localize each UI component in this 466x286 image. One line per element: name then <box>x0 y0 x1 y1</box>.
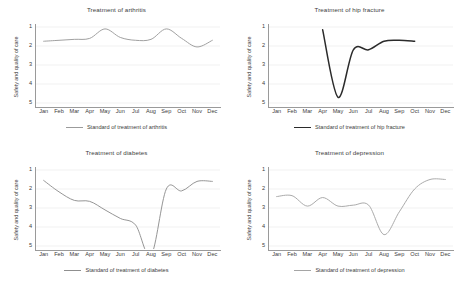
y-tick-label: 1 <box>20 23 32 29</box>
y-tick-label: 1 <box>253 166 265 172</box>
legend-diabetes: Standard of treatment of diabetes <box>0 267 233 273</box>
data-line <box>44 29 213 47</box>
y-tick-label: 3 <box>253 61 265 67</box>
panel-depression: Treatment of depression Safety and quali… <box>233 143 466 286</box>
y-axis-line <box>35 24 36 108</box>
y-tick-label: 1 <box>20 166 32 172</box>
panel-hip-fracture: Treatment of hip fracture Safety and qua… <box>233 0 466 143</box>
chart-title-diabetes: Treatment of diabetes <box>0 149 233 156</box>
data-line <box>277 179 446 235</box>
plot-svg-hip-fracture <box>269 24 453 106</box>
plot-area-depression <box>269 167 453 249</box>
y-tick-label: 3 <box>253 204 265 210</box>
y-tick-label: 5 <box>253 242 265 248</box>
data-line <box>323 30 415 98</box>
legend-arthritis: Standard of treatment of arthritis <box>0 124 233 130</box>
plot-svg-depression <box>269 167 453 249</box>
y-tick-label: 2 <box>20 185 32 191</box>
chart-title-depression: Treatment of depression <box>233 149 466 156</box>
y-tick-label: 1 <box>253 23 265 29</box>
y-tick-label: 4 <box>20 80 32 86</box>
legend-label-hip-fracture: Standard of treatment of hip fracture <box>315 124 405 130</box>
legend-label-depression: Standard of treatment of depression <box>315 267 404 273</box>
y-tick-label: 3 <box>20 204 32 210</box>
panel-arthritis: Treatment of arthritis Safety and qualit… <box>0 0 233 143</box>
legend-line-icon <box>294 127 311 128</box>
data-line <box>44 180 213 249</box>
chart-title-hip-fracture: Treatment of hip fracture <box>233 6 466 13</box>
legend-line-icon <box>64 270 81 271</box>
x-tick-label-dec: Dec <box>203 251 221 257</box>
y-tick-label: 2 <box>20 42 32 48</box>
legend-hip-fracture: Standard of treatment of hip fracture <box>233 124 466 130</box>
y-axis-label-diabetes: Safety and quality of care <box>13 93 23 171</box>
legend-label-diabetes: Standard of treatment of diabetes <box>85 267 168 273</box>
y-tick-label: 3 <box>20 61 32 67</box>
legend-label-arthritis: Standard of treatment of arthritis <box>87 124 167 130</box>
chart-grid: Treatment of arthritis Safety and qualit… <box>0 0 466 286</box>
y-tick-label: 4 <box>253 223 265 229</box>
y-tick-label: 2 <box>253 185 265 191</box>
x-tick-label-dec: Dec <box>203 108 221 114</box>
y-tick-label: 5 <box>20 242 32 248</box>
plot-svg-diabetes <box>36 167 220 249</box>
plot-area-arthritis <box>36 24 220 106</box>
y-axis-line <box>268 24 269 108</box>
y-axis-line <box>35 167 36 251</box>
plot-svg-arthritis <box>36 24 220 106</box>
y-tick-label: 2 <box>253 42 265 48</box>
y-tick-label: 4 <box>20 223 32 229</box>
legend-line-icon <box>294 270 311 271</box>
y-tick-label: 4 <box>253 80 265 86</box>
x-tick-label-dec: Dec <box>436 251 454 257</box>
chart-title-arthritis: Treatment of arthritis <box>0 6 233 13</box>
y-axis-label-depression: Safety and quality of care <box>246 93 256 171</box>
plot-area-hip-fracture <box>269 24 453 106</box>
legend-depression: Standard of treatment of depression <box>233 267 466 273</box>
legend-line-icon <box>66 127 83 128</box>
y-axis-line <box>268 167 269 251</box>
x-tick-label-dec: Dec <box>436 108 454 114</box>
plot-area-diabetes <box>36 167 220 249</box>
panel-diabetes: Treatment of diabetes Safety and quality… <box>0 143 233 286</box>
